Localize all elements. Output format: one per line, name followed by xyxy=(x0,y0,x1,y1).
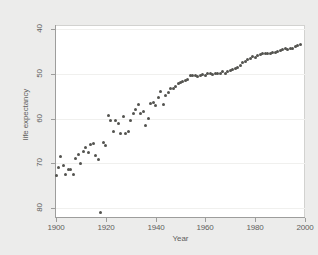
scatter-point xyxy=(57,166,60,169)
x-tick-label-1920: 1920 xyxy=(89,223,123,232)
scatter-point xyxy=(137,103,140,106)
scatter-point xyxy=(97,158,100,161)
y-tick-label-40: 80 xyxy=(35,198,44,218)
x-tick-label-1960: 1960 xyxy=(188,223,222,232)
scatter-point xyxy=(77,153,80,156)
scatter-point xyxy=(157,96,160,99)
y-tick-mark-50 xyxy=(51,163,55,164)
x-tick-mark-1920 xyxy=(106,218,107,222)
y-tick-label-50: 70 xyxy=(35,153,44,173)
scatter-point xyxy=(159,90,162,93)
y-axis-title: life expectancy xyxy=(21,75,30,155)
scatter-point xyxy=(92,142,95,145)
scatter-point xyxy=(107,114,110,117)
x-tick-mark-1900 xyxy=(56,218,57,222)
x-tick-label-1900: 1900 xyxy=(39,223,73,232)
x-tick-mark-1960 xyxy=(205,218,206,222)
scatter-point xyxy=(112,130,115,133)
gridline-y-50 xyxy=(56,163,305,164)
scatter-point xyxy=(127,130,130,133)
scatter-point xyxy=(55,174,58,177)
scatter-point xyxy=(162,103,165,106)
gridline-y-70 xyxy=(56,74,305,75)
scatter-point xyxy=(147,117,150,120)
gridline-y-80 xyxy=(56,29,305,30)
scatter-point xyxy=(167,91,170,94)
scatter-point xyxy=(104,144,107,147)
y-tick-label-80: 40 xyxy=(35,19,44,39)
scatter-point xyxy=(72,173,75,176)
scatter-point xyxy=(99,211,102,214)
gridline-y-60 xyxy=(56,119,305,120)
y-tick-mark-70 xyxy=(51,74,55,75)
x-axis-title: Year xyxy=(56,234,305,243)
y-tick-label-60: 60 xyxy=(35,109,44,129)
scatter-point xyxy=(299,43,302,46)
y-tick-mark-60 xyxy=(51,119,55,120)
x-tick-mark-1940 xyxy=(156,218,157,222)
chart-figure: 8070605040 190019201940196019802000 life… xyxy=(0,0,318,255)
scatter-point xyxy=(152,101,155,104)
scatter-point xyxy=(129,119,132,122)
gridline-y-40 xyxy=(56,208,305,209)
y-tick-label-70: 50 xyxy=(35,64,44,84)
x-axis-line xyxy=(55,217,305,218)
scatter-point xyxy=(142,110,145,113)
scatter-point xyxy=(114,119,117,122)
chart-inner-frame: 8070605040 190019201940196019802000 life… xyxy=(8,6,310,244)
scatter-point xyxy=(117,122,120,125)
y-axis-line xyxy=(55,25,56,218)
scatter-point xyxy=(239,64,242,67)
x-tick-mark-1980 xyxy=(255,218,256,222)
y-tick-mark-80 xyxy=(51,29,55,30)
x-tick-label-2000: 2000 xyxy=(288,223,318,232)
x-tick-label-1980: 1980 xyxy=(238,223,272,232)
x-tick-label-1940: 1940 xyxy=(139,223,173,232)
scatter-point xyxy=(87,151,90,154)
x-tick-mark-2000 xyxy=(305,218,306,222)
y-tick-mark-40 xyxy=(51,208,55,209)
